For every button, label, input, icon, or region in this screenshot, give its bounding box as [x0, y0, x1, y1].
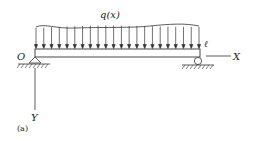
x-axis-label: X [232, 51, 241, 62]
roller-support [182, 57, 214, 69]
length-label: ℓ [204, 39, 208, 49]
figure-caption: (a) [17, 124, 28, 133]
beam [35, 49, 200, 57]
load-arrows [34, 26, 200, 49]
load-label: q(x) [100, 9, 120, 20]
beam-diagram: q(x) O ℓ X Y (a) [0, 0, 256, 141]
origin-label: O [17, 51, 25, 62]
load-curve [36, 24, 199, 28]
y-axis-label: Y [31, 112, 39, 123]
